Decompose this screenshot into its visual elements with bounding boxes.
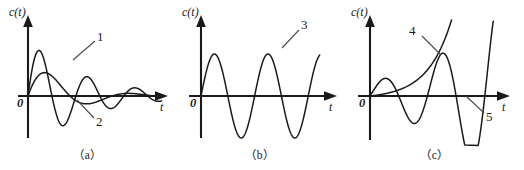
curve-label-1: 1 — [97, 30, 104, 43]
curve-label-2: 2 — [96, 115, 103, 128]
panel-c: c(t) t 0 4 5 （c） — [345, 0, 524, 170]
panel-a-plot — [0, 0, 175, 170]
panel-a: c(t) t 0 1 2 （a） — [0, 0, 175, 170]
curve-5 — [370, 21, 493, 145]
y-axis-label: c(t) — [182, 6, 199, 18]
panel-b-plot — [175, 0, 345, 170]
y-axis-label: c(t) — [9, 6, 26, 18]
curve-2 — [28, 50, 162, 125]
leader-line-5 — [466, 96, 484, 113]
panel-c-plot — [345, 0, 524, 170]
origin-label: 0 — [17, 97, 23, 110]
leader-line-3 — [282, 30, 299, 48]
x-axis-label: t — [502, 101, 505, 113]
panel-c-caption: （c） — [345, 146, 524, 162]
x-axis-label: t — [329, 101, 332, 113]
origin-label: 0 — [359, 97, 365, 110]
panel-b: c(t) t 0 3 （b） — [175, 0, 345, 170]
leader-line-1 — [73, 41, 95, 60]
curve-label-4: 4 — [409, 24, 416, 37]
panel-b-caption: （b） — [175, 146, 345, 162]
panel-a-axes — [18, 15, 168, 138]
curve-label-3: 3 — [301, 18, 308, 31]
figure-root: c(t) t 0 1 2 （a） c(t) t 0 3 （b） — [0, 0, 524, 170]
origin-label: 0 — [190, 97, 196, 110]
leader-line-4 — [422, 36, 441, 55]
x-axis-label: t — [160, 101, 163, 113]
panel-a-caption: （a） — [0, 146, 175, 162]
panel-b-axes — [189, 15, 337, 138]
y-axis-label: c(t) — [351, 6, 368, 18]
curve-label-5: 5 — [486, 110, 493, 123]
